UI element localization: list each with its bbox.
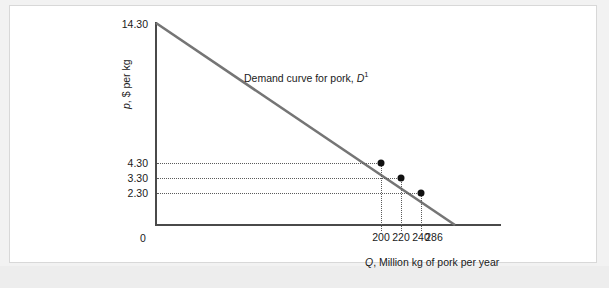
y-tick-label-330: 3.30 [100,173,148,184]
demand-curve-svg [10,6,598,264]
y-tick-label-230: 2.30 [100,188,148,199]
x-axis-title-symbol: Q [365,256,373,268]
demand-curve-line [156,23,455,225]
x-tick-label-200: 200 [372,232,390,243]
x-axis-title-rest: , Million kg of pork per year [373,256,499,268]
guide-line-horizontal-330 [157,178,401,179]
plot-area: 14.30 4.30 3.30 2.30 0 200 220 240 286 p… [10,6,598,264]
data-point [378,160,385,167]
figure-root: 14.30 4.30 3.30 2.30 0 200 220 240 286 p… [0,0,609,288]
guide-line-vertical-240 [421,193,422,231]
guide-line-horizontal-430 [157,163,381,164]
data-point [398,175,405,182]
y-axis-title-rest: , $ per kg [120,59,132,103]
x-tick-label-220: 220 [392,232,410,243]
demand-curve-label-superscript: 1 [364,70,368,79]
x-axis-title: Q, Million kg of pork per year [365,256,499,268]
y-tick-label-430: 4.30 [100,158,148,169]
guide-line-vertical-200 [381,163,382,231]
x-tick-label-286: 286 [425,232,443,243]
origin-label: 0 [140,232,146,244]
y-tick-label-1430: 14.30 [100,19,148,30]
guide-line-vertical-220 [401,178,402,231]
demand-curve-label: Demand curve for pork, D1 [244,70,368,84]
data-point [418,190,425,197]
page-bottom-shade [0,266,609,288]
y-axis-title-symbol: p [120,103,132,109]
demand-curve-label-text: Demand curve for pork, [244,72,357,84]
figure-panel: 14.30 4.30 3.30 2.30 0 200 220 240 286 p… [9,5,597,263]
guide-line-horizontal-230 [157,193,421,194]
y-axis-title: p, $ per kg [120,59,132,109]
